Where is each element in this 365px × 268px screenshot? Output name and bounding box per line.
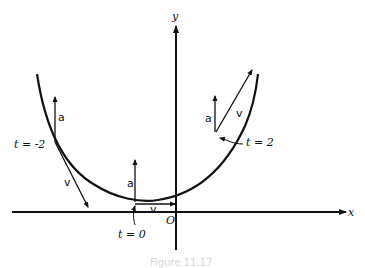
figure-caption: Figure 11.17 <box>150 257 212 268</box>
pointer-t0 <box>134 206 136 225</box>
y-axis-label: y <box>171 10 179 23</box>
velocity-vector-t-neg2 <box>55 142 88 207</box>
velocity-label-t-neg2: v <box>64 176 71 189</box>
diagram-canvas: x y O a v t = -2 a v t = 0 a v t = 2 Fig… <box>0 0 365 268</box>
acceleration-label-t-neg2: a <box>58 111 65 124</box>
acceleration-label-t0: a <box>127 177 134 190</box>
velocity-label-t0: v <box>150 203 157 216</box>
velocity-label-t2: v <box>236 107 243 120</box>
acceleration-label-t2: a <box>205 112 212 125</box>
origin-label: O <box>166 214 175 227</box>
point-label-t0: t = 0 <box>118 228 146 241</box>
x-axis-label: x <box>348 206 355 219</box>
point-label-t-neg2: t = -2 <box>14 138 45 151</box>
point-label-t2: t = 2 <box>246 136 274 149</box>
